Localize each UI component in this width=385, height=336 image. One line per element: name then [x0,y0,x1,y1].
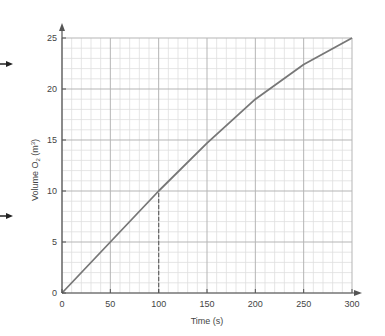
x-tick-label: 50 [105,299,115,309]
y-tick-labels: 0510152025 [47,33,66,298]
arrow-right-icon [6,213,13,219]
x-tick-label: 250 [296,299,311,309]
x-tick-label: 300 [344,299,359,309]
y-tick-label: 15 [47,135,57,145]
y-tick-label: 10 [47,186,57,196]
y-axis-arrow-icon [59,23,65,31]
y-tick-label: 0 [52,288,57,298]
x-tick-labels: 050100150200250300 [59,289,359,309]
major-grid [62,38,352,293]
y-tick-label: 20 [47,84,57,94]
x-tick-label: 150 [199,299,214,309]
x-axis-arrow-icon [354,290,362,296]
margin-arrows [0,61,13,219]
y-tick-label: 5 [52,237,57,247]
line-chart: 050100150200250300 0510152025 Time (s) V… [0,0,385,336]
axes [59,23,362,296]
x-tick-label: 0 [59,299,64,309]
y-tick-label: 25 [47,33,57,43]
x-axis-label: Time (s) [191,316,224,326]
x-tick-label: 100 [151,299,166,309]
x-tick-label: 200 [248,299,263,309]
y-axis-label: Volume O2 (m3) [30,139,41,201]
arrow-right-icon [6,61,13,67]
